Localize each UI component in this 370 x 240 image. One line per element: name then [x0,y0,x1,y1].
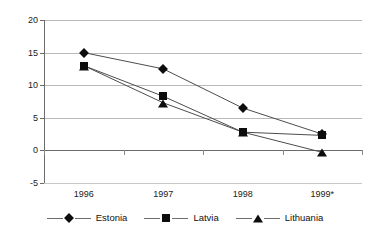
legend-line-right [264,218,280,219]
legend-item-latvia[interactable]: Latvia [144,212,218,224]
legend-line-left [236,218,252,219]
y-tick-label--5: -5 [30,179,38,188]
y-tick-label-0: 0 [33,146,38,155]
square-marker [160,212,172,224]
legend-label: Latvia [193,213,218,223]
triangle-marker-glyph [253,214,263,222]
legend-label: Lithuania [285,213,324,223]
x-tick-label-2: 1998 [233,190,253,199]
legend-item-estonia[interactable]: Estonia [47,212,128,224]
square-marker-glyph [162,214,170,222]
y-tick-label-10: 10 [28,81,38,90]
datapoint-lithuania-1996 [79,62,89,70]
datapoint-lithuania-1998 [238,129,248,137]
legend-line-right [75,218,91,219]
series-lines [44,20,362,183]
plot-area: 20151050-5 1996199719981999* [44,20,362,183]
legend-line-right [172,218,188,219]
y-tick-label-5: 5 [33,113,38,122]
datapoint-latvia-1999 [318,131,326,139]
line-chart: 20151050-5 1996199719981999* EstoniaLatv… [0,0,370,240]
x-tick-4 [362,150,363,155]
gridline--5 [44,183,362,184]
legend-item-lithuania[interactable]: Lithuania [236,212,324,224]
legend-label: Estonia [96,213,128,223]
y-tick-label-15: 15 [28,48,38,57]
diamond-marker [63,212,75,224]
datapoint-lithuania-1997 [158,99,168,107]
diamond-marker-glyph [64,213,74,223]
y-tick-label-20: 20 [28,16,38,25]
legend-line-left [144,218,160,219]
series-line-lithuania [84,66,323,153]
legend-line-left [47,218,63,219]
x-tick-label-1: 1997 [153,190,173,199]
y-tick--5 [40,183,44,184]
series-line-latvia [84,66,323,136]
x-tick-label-3: 1999* [310,190,334,199]
datapoint-lithuania-1999 [317,149,327,157]
series-line-estonia [84,53,323,135]
x-tick-label-0: 1996 [74,190,94,199]
chart-legend: EstoniaLatviaLithuania [0,212,370,224]
chart-title [0,0,370,7]
triangle-marker [252,212,264,224]
